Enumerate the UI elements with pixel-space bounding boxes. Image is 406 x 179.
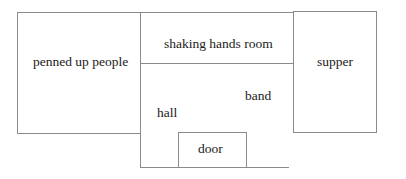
room-label-band: band: [245, 89, 271, 103]
penned-top-wall: [17, 12, 293, 13]
penned-left-wall: [17, 12, 18, 134]
hall-bottom-wall: [140, 167, 289, 168]
room-label-supper: supper: [317, 55, 353, 69]
supper-top-wall: [293, 11, 377, 12]
supper-right-wall: [376, 11, 377, 133]
room-label-hall: hall: [157, 106, 177, 120]
shaking-bottom-wall: [140, 63, 293, 64]
room-label-penned: penned up people: [33, 55, 128, 69]
door-top-wall: [178, 132, 246, 133]
supper-bottom-wall: [293, 132, 377, 133]
room-label-shaking: shaking hands room: [164, 37, 273, 51]
supper-left-wall: [293, 11, 294, 133]
penned-bottom-wall: [17, 133, 141, 134]
penned-right-wall: [140, 12, 141, 168]
door-left-wall: [178, 132, 179, 167]
room-label-door: door: [198, 142, 223, 156]
door-right-wall: [246, 132, 247, 167]
